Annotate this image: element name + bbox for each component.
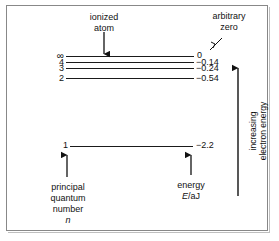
annotation-arrows-layer [0,0,279,241]
arbitrary-zero-leader-line [210,38,222,50]
energy-level-figure: ∞ 4 3 2 1 0 −0.14 −0.24 −0.54 −2.2 [0,0,279,241]
